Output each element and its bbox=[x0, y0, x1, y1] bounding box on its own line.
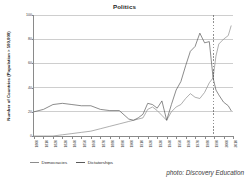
x-tick-label: 1960 bbox=[187, 140, 191, 148]
x-tick-mark bbox=[167, 136, 168, 139]
y-tick-label: 40 bbox=[28, 86, 32, 90]
legend-swatch bbox=[30, 162, 39, 163]
x-tick-label: 2000 bbox=[225, 140, 229, 148]
x-tick-label: 1810 bbox=[45, 140, 49, 148]
legend-label: Democracies bbox=[42, 160, 68, 165]
x-tick-label: 2010 bbox=[234, 140, 238, 148]
photo-credit: photo: Discovery Education bbox=[166, 169, 244, 176]
x-tick-label: 1820 bbox=[54, 140, 58, 148]
y-tick-label: 100 bbox=[26, 13, 32, 17]
x-tick-mark bbox=[157, 136, 158, 139]
x-tick-label: 1950 bbox=[178, 140, 182, 148]
x-tick-label: 1890 bbox=[121, 140, 125, 148]
x-tick-mark bbox=[138, 136, 139, 139]
x-tick-label: 1990 bbox=[215, 140, 219, 148]
x-tick-mark bbox=[129, 136, 130, 139]
x-tick-label: 1830 bbox=[64, 140, 68, 148]
x-tick-mark bbox=[62, 136, 63, 139]
politics-chart-figure: Politics Number of Countries (Population… bbox=[0, 0, 249, 180]
y-tick-mark bbox=[32, 88, 34, 89]
x-tick-mark bbox=[214, 136, 215, 139]
series-line-dictatorships bbox=[34, 33, 231, 120]
y-tick-label: 60 bbox=[28, 61, 32, 65]
x-tick-mark bbox=[34, 136, 35, 139]
x-tick-label: 1900 bbox=[130, 140, 134, 148]
chart-title: Politics bbox=[0, 3, 249, 10]
y-axis-label: Number of Countries (Population > 500,00… bbox=[6, 15, 11, 137]
legend-label: Dictatorships bbox=[88, 160, 113, 165]
x-tick-mark bbox=[148, 136, 149, 139]
chart-legend: DemocraciesDictatorships bbox=[30, 160, 113, 165]
x-tick-mark bbox=[53, 136, 54, 139]
y-tick-label: 0 bbox=[30, 134, 32, 138]
x-tick-mark bbox=[43, 136, 44, 139]
x-tick-label: 1920 bbox=[149, 140, 153, 148]
x-tick-mark bbox=[100, 136, 101, 139]
x-tick-mark bbox=[233, 136, 234, 139]
y-tick-label: 20 bbox=[28, 110, 32, 114]
plot-area: Number of Countries (Population > 500,00… bbox=[33, 15, 233, 137]
x-tick-label: 1800 bbox=[35, 140, 39, 148]
legend-swatch bbox=[76, 162, 85, 163]
x-tick-mark bbox=[119, 136, 120, 139]
x-tick-mark bbox=[176, 136, 177, 139]
x-tick-mark bbox=[224, 136, 225, 139]
x-tick-label: 1870 bbox=[102, 140, 106, 148]
y-tick-label: 80 bbox=[28, 37, 32, 41]
x-tick-mark bbox=[81, 136, 82, 139]
y-tick-mark bbox=[32, 39, 34, 40]
x-tick-label: 1880 bbox=[111, 140, 115, 148]
x-tick-mark bbox=[91, 136, 92, 139]
y-tick-mark bbox=[32, 112, 34, 113]
x-tick-label: 1980 bbox=[206, 140, 210, 148]
x-tick-mark bbox=[186, 136, 187, 139]
x-tick-label: 1930 bbox=[159, 140, 163, 148]
x-tick-mark bbox=[110, 136, 111, 139]
x-tick-label: 1940 bbox=[168, 140, 172, 148]
legend-entry-dictatorships[interactable]: Dictatorships bbox=[76, 160, 113, 165]
gridlines-group bbox=[34, 15, 233, 112]
x-tick-mark bbox=[72, 136, 73, 139]
legend-entry-democracies[interactable]: Democracies bbox=[30, 160, 67, 165]
x-tick-label: 1910 bbox=[140, 140, 144, 148]
x-tick-label: 1850 bbox=[83, 140, 87, 148]
y-tick-mark bbox=[32, 63, 34, 64]
x-tick-mark bbox=[195, 136, 196, 139]
x-tick-label: 1860 bbox=[92, 140, 96, 148]
series-line-democracies bbox=[34, 26, 231, 136]
x-tick-label: 1840 bbox=[73, 140, 77, 148]
plot-svg bbox=[34, 15, 233, 136]
y-tick-mark bbox=[32, 15, 34, 16]
series-group bbox=[34, 26, 231, 136]
x-tick-mark bbox=[205, 136, 206, 139]
x-tick-label: 1970 bbox=[196, 140, 200, 148]
